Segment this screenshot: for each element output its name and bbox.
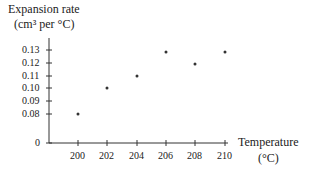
y-tick-label: 0.10	[22, 82, 40, 93]
x-tick-label: 210	[217, 150, 232, 161]
x-axis-units: (°C)	[258, 151, 279, 166]
x-tick-label: 206	[158, 150, 173, 161]
x-tick-label: 204	[129, 150, 144, 161]
x-tick-label: 208	[187, 150, 202, 161]
y-tick-label: 0.11	[22, 70, 39, 81]
y-tick-label: 0.09	[22, 95, 40, 106]
data-points	[77, 51, 227, 116]
x-tick-label: 202	[99, 150, 114, 161]
x-axis-label: Temperature	[238, 135, 298, 150]
y-tick-label: 0.13	[22, 44, 40, 55]
y-tick-label: 0.08	[22, 108, 40, 119]
x-tick-label: 200	[70, 150, 85, 161]
y-tick-label: 0	[35, 137, 40, 148]
y-tick-label: 0.12	[22, 57, 40, 68]
